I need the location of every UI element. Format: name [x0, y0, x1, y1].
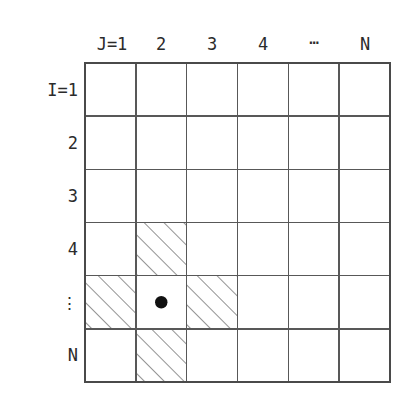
- row-label-n: N: [68, 345, 78, 365]
- row-label-3: 3: [68, 186, 78, 206]
- grid-stencil-diagram: J=1 2 3 4 ⋯ N I=1 2 3 4 ⋮ N: [0, 0, 413, 401]
- grid-line-group: [85, 63, 390, 382]
- column-label-n: N: [360, 34, 370, 54]
- figure-container: J=1 2 3 4 ⋯ N I=1 2 3 4 ⋮ N: [0, 0, 413, 401]
- center-node-dot: [155, 296, 167, 308]
- hatched-cell-r5c1: [85, 276, 136, 329]
- row-label-2: 2: [68, 133, 78, 153]
- row-header-group: I=1 2 3 4 ⋮ N: [47, 80, 78, 365]
- row-label-4: 4: [68, 239, 78, 259]
- row-label-ellipsis: ⋮: [61, 293, 78, 313]
- hatched-cell-r4c2: [136, 223, 187, 276]
- column-label-3: 3: [207, 34, 217, 54]
- column-label-4: 4: [258, 34, 268, 54]
- row-label-1: I=1: [47, 80, 78, 100]
- column-label-2: 2: [156, 34, 166, 54]
- column-header-group: J=1 2 3 4 ⋯ N: [97, 32, 370, 54]
- column-label-1: J=1: [97, 34, 128, 54]
- hatched-cell-r5c3: [187, 276, 238, 329]
- hatched-cell-r6c2: [136, 329, 187, 382]
- center-node-group: [155, 296, 167, 308]
- column-label-ellipsis: ⋯: [309, 32, 319, 52]
